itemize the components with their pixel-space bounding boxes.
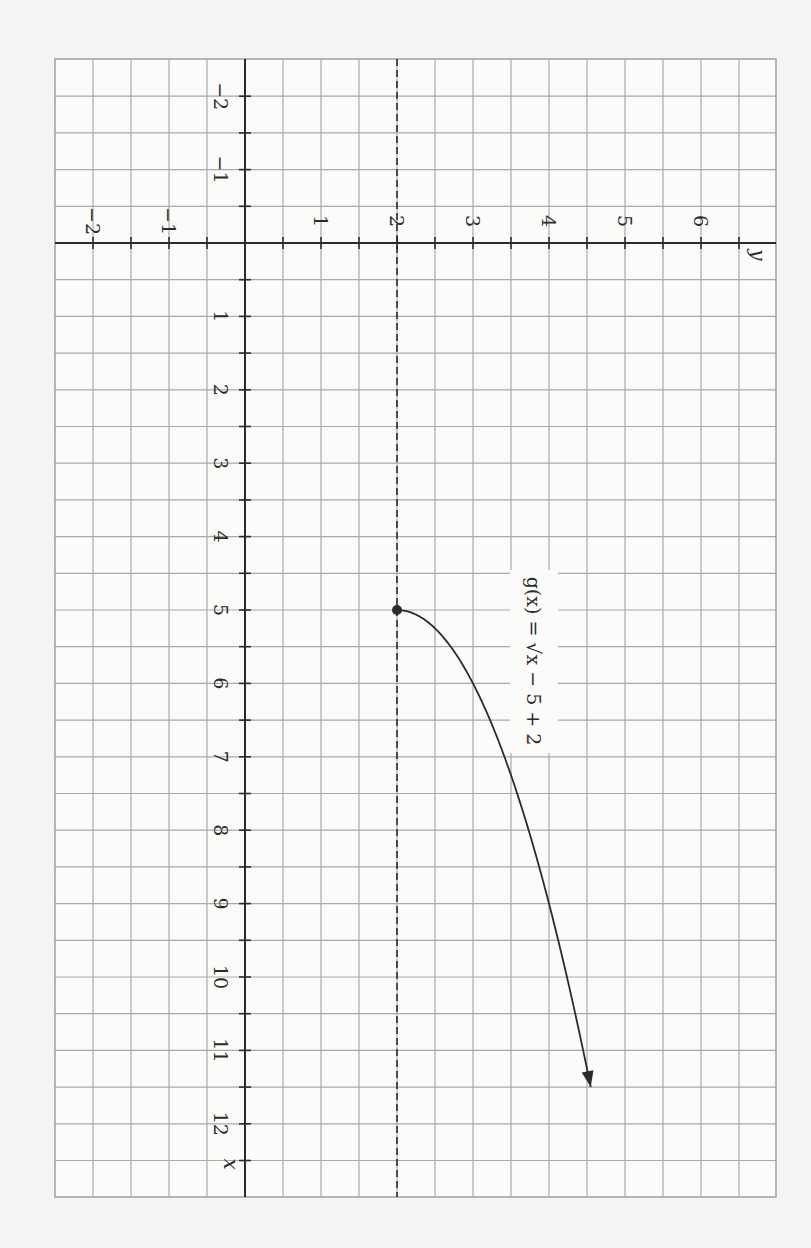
- y-tick-label: 1: [310, 215, 332, 227]
- x-tick-label: 6: [210, 677, 232, 689]
- x-tick-label: 4: [210, 531, 232, 543]
- x-tick-label: 7: [210, 751, 232, 763]
- start-point-dot: [392, 605, 402, 615]
- x-tick-label: 10: [210, 965, 232, 989]
- y-tick-label: 2: [386, 215, 408, 227]
- y-tick-label: 4: [538, 215, 560, 227]
- x-tick-label: 8: [210, 824, 232, 836]
- y-tick-label: 5: [614, 215, 636, 227]
- y-tick-label: 3: [462, 215, 484, 227]
- y-tick-label: −2: [82, 207, 104, 235]
- x-tick-label: 11: [210, 1038, 232, 1062]
- function-label: g(x) = √x − 5 + 2: [523, 577, 545, 746]
- x-tick-label: 2: [210, 384, 232, 396]
- rotated-function-graph: −2−1123456789101112−2−1123456 x y g(x) =…: [0, 0, 811, 1248]
- x-tick-label: 9: [210, 898, 232, 910]
- y-axis-label: y: [746, 248, 770, 261]
- x-axis-label: x: [219, 1159, 243, 1170]
- x-tick-label: 1: [210, 310, 232, 322]
- x-tick-label: −2: [210, 82, 232, 110]
- x-tick-label: 5: [210, 604, 232, 616]
- x-tick-label: 3: [210, 457, 232, 469]
- function-label-text: g(x) = √x − 5 + 2: [523, 577, 545, 746]
- x-tick-label: 12: [210, 1112, 232, 1136]
- y-tick-label: −1: [158, 207, 180, 235]
- x-tick-label: −1: [210, 156, 232, 184]
- y-tick-label: 6: [690, 215, 712, 227]
